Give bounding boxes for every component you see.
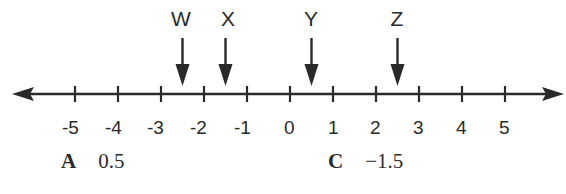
point-label-x: X: [221, 8, 235, 29]
tick-label: 3: [413, 118, 424, 137]
point-label-w: W: [171, 8, 191, 29]
down-arrow-icon: [176, 38, 190, 86]
tick-label: -4: [105, 118, 122, 137]
tick-label: -1: [234, 118, 251, 137]
choice-value: 0.5: [98, 149, 124, 173]
down-arrow-icon: [305, 38, 319, 86]
answer-choice-c[interactable]: C−1.5: [328, 151, 403, 172]
point-pointers: [176, 38, 405, 86]
answer-choice-a[interactable]: A0.5: [61, 151, 124, 172]
choice-letter: C: [328, 149, 343, 173]
tick-label: -3: [147, 118, 164, 137]
tick-label: 1: [328, 118, 339, 137]
tick-label: -5: [62, 118, 79, 137]
point-label-z: Z: [391, 8, 404, 29]
choice-value: −1.5: [365, 149, 403, 173]
tick-label: 2: [370, 118, 381, 137]
number-line-figure: W X Y Z -5 -4 -3 -2 -1 0 1 2 3 4 5 A0.5 …: [0, 0, 566, 194]
tick-label: 4: [456, 118, 467, 137]
tick-label: 5: [499, 118, 510, 137]
down-arrow-icon: [391, 38, 405, 86]
tick-label: 0: [284, 118, 295, 137]
tick-label: -2: [190, 118, 207, 137]
point-label-y: Y: [304, 8, 318, 29]
down-arrow-icon: [219, 38, 233, 86]
choice-letter: A: [61, 149, 76, 173]
